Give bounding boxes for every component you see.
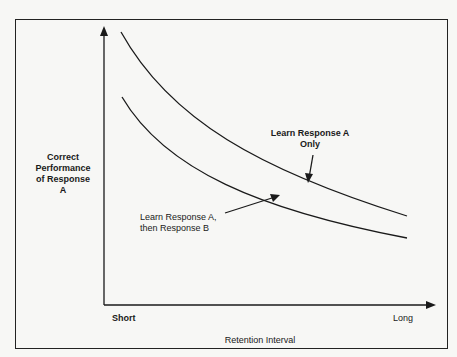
y-label-line: Performance	[28, 163, 98, 174]
y-axis-arrowhead-icon	[100, 26, 108, 36]
y-label-line: of Response	[28, 174, 98, 185]
label-learn-a-only: Learn Response A Only	[255, 128, 365, 150]
curve-learn-a-only	[121, 32, 407, 216]
arrow-lower-shaft	[225, 197, 275, 213]
y-label-line: A	[28, 185, 98, 196]
y-axis-label: Correct Performance of Response A	[28, 152, 98, 196]
x-tick-long: Long	[393, 313, 413, 324]
curve-label-line: then Response B	[140, 223, 230, 234]
x-axis-label: Retention Interval	[200, 335, 320, 346]
curve-label-line: Learn Response A,	[140, 212, 230, 223]
x-tick-short: Short	[112, 313, 136, 324]
x-axis-arrowhead-icon	[426, 301, 436, 309]
arrow-lower-head-icon	[270, 194, 280, 202]
label-learn-a-then-b: Learn Response A, then Response B	[140, 212, 230, 234]
y-label-line: Correct	[28, 152, 98, 163]
curve-label-line: Only	[255, 139, 365, 150]
curve-label-line: Learn Response A	[255, 128, 365, 139]
